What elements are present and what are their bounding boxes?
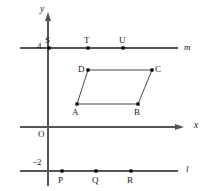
point-label-U: U bbox=[119, 36, 126, 45]
x-axis-arrowhead bbox=[175, 124, 184, 130]
vertex-D bbox=[86, 68, 89, 71]
vertex-C bbox=[150, 68, 153, 71]
point-T bbox=[86, 46, 89, 49]
point-Q bbox=[94, 169, 97, 172]
origin-label: O bbox=[38, 130, 45, 139]
parallelogram-ABCD bbox=[77, 70, 152, 104]
point-label-R: R bbox=[127, 176, 133, 185]
x-axis-label: x bbox=[194, 121, 198, 130]
vertex-B bbox=[136, 102, 139, 105]
point-P bbox=[60, 169, 63, 172]
point-U bbox=[121, 46, 124, 49]
point-S bbox=[47, 46, 50, 49]
point-label-S: S bbox=[45, 36, 50, 45]
vertex-A bbox=[75, 102, 78, 105]
y-axis-arrowhead bbox=[45, 12, 51, 21]
vertex-label-A: A bbox=[72, 108, 79, 117]
point-label-P: P bbox=[58, 176, 63, 185]
vertex-label-B: B bbox=[134, 108, 140, 117]
geometry-figure: y x O ml4−2STUPQRABCD bbox=[0, 0, 208, 191]
vertex-label-D: D bbox=[78, 65, 85, 74]
point-R bbox=[129, 169, 132, 172]
y-tick-4: 4 bbox=[37, 42, 42, 51]
y-tick-minus-2: −2 bbox=[32, 158, 42, 167]
point-label-Q: Q bbox=[92, 176, 99, 185]
line-label-m: m bbox=[184, 43, 191, 52]
line-label-l: l bbox=[186, 165, 189, 174]
point-label-T: T bbox=[84, 36, 90, 45]
y-axis-label: y bbox=[40, 5, 44, 14]
vertex-label-C: C bbox=[155, 65, 161, 74]
